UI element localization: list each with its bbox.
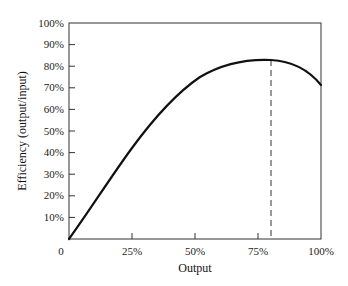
y-axis-ticks — [69, 45, 75, 218]
svg-text:70%: 70% — [44, 81, 64, 93]
svg-text:80%: 80% — [44, 60, 64, 72]
svg-text:0: 0 — [58, 245, 64, 257]
svg-text:25%: 25% — [122, 245, 142, 257]
svg-text:75%: 75% — [248, 245, 268, 257]
x-axis-labels: 0 25% 50% 75% 100% — [58, 245, 334, 257]
svg-text:10%: 10% — [44, 211, 64, 223]
svg-text:50%: 50% — [185, 245, 205, 257]
x-axis-ticks — [132, 233, 258, 239]
svg-text:100%: 100% — [38, 17, 64, 29]
svg-text:100%: 100% — [308, 245, 334, 257]
efficiency-curve — [69, 60, 321, 239]
plot-frame — [69, 23, 321, 239]
svg-text:40%: 40% — [44, 146, 64, 158]
y-axis-labels: 10% 20% 30% 40% 50% 60% 70% 80% 90% 100% — [38, 17, 64, 223]
svg-text:50%: 50% — [44, 125, 64, 137]
svg-text:60%: 60% — [44, 103, 64, 115]
svg-text:20%: 20% — [44, 189, 64, 201]
y-axis-title: Efficiency (output/input) — [15, 71, 29, 190]
svg-text:30%: 30% — [44, 168, 64, 180]
svg-text:90%: 90% — [44, 38, 64, 50]
x-axis-title: Output — [178, 261, 212, 275]
efficiency-chart: 10% 20% 30% 40% 50% 60% 70% 80% 90% 100%… — [0, 0, 348, 286]
